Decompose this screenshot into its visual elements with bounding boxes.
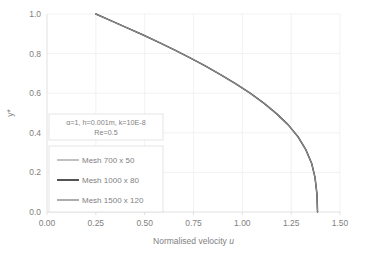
x-tick-label: 0.25 (88, 218, 105, 228)
x-tick-label: 0.00 (39, 218, 56, 228)
x-tick-label: 1.50 (332, 218, 349, 228)
annotation-line-2: Re=0.5 (94, 128, 117, 137)
chart-container: 0.000.250.500.751.001.251.500.00.20.40.6… (0, 0, 365, 256)
legend-label-2: Mesh 1000 x 80 (82, 176, 139, 185)
legend-label-1: Mesh 700 x 50 (82, 156, 135, 165)
y-axis-title: y* (5, 109, 15, 117)
y-tick-label: 0.8 (29, 49, 41, 59)
x-tick-label: 0.75 (185, 218, 202, 228)
x-tick-label: 1.25 (283, 218, 300, 228)
y-tick-label: 0.6 (29, 88, 41, 98)
x-tick-label: 1.00 (234, 218, 251, 228)
y-tick-label: 0.2 (29, 167, 41, 177)
x-axis-title: Normalised velocity u (153, 236, 234, 246)
legend-label-3: Mesh 1500 x 120 (82, 196, 144, 205)
annotation-box: α=1, h=0.001m, k=10E-8Re=0.5 (49, 114, 163, 140)
annotation-line-1: α=1, h=0.001m, k=10E-8 (66, 118, 145, 127)
normalised-velocity-chart: 0.000.250.500.751.001.251.500.00.20.40.6… (0, 0, 365, 256)
y-tick-label: 1.0 (29, 9, 41, 19)
legend: Mesh 700 x 50Mesh 1000 x 80Mesh 1500 x 1… (49, 146, 163, 212)
x-tick-label: 0.50 (136, 218, 153, 228)
y-tick-label: 0.4 (29, 128, 41, 138)
y-tick-label: 0.0 (29, 207, 41, 217)
